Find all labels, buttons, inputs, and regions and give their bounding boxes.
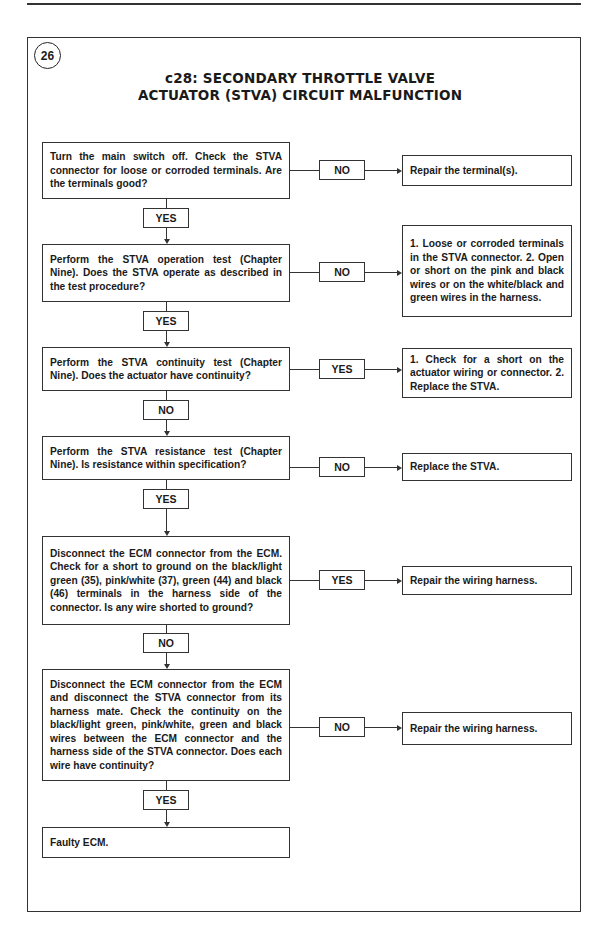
connector-line xyxy=(166,480,167,489)
connector-line xyxy=(166,625,167,633)
connector-line xyxy=(166,781,167,790)
step-2-result-box: 1. Loose or corroded terminals in the ST… xyxy=(402,225,572,317)
step-5-result-box: Repair the wiring harness. xyxy=(402,566,572,595)
step-3-yes-label: YES xyxy=(319,359,365,379)
step-5-no-label: NO xyxy=(143,633,189,653)
figure-number-badge: 26 xyxy=(34,42,61,69)
step-4-yes-label: YES xyxy=(143,489,189,509)
connector-line xyxy=(365,580,397,581)
step-6-box: Disconnect the ECM connector from the EC… xyxy=(42,669,290,781)
step-2-no-label: NO xyxy=(319,262,365,282)
figure-title: c28: SECONDARY THROTTLE VALVE ACTUATOR (… xyxy=(60,70,540,104)
connector-line xyxy=(290,727,319,728)
connector-line xyxy=(166,653,167,664)
connector-line xyxy=(290,467,319,468)
step-1-no-label: NO xyxy=(319,160,365,180)
connector-line xyxy=(290,580,319,581)
connector-line xyxy=(290,272,319,273)
step-4-box: Perform the STVA resistance test (Chapte… xyxy=(42,436,290,480)
connector-line xyxy=(365,170,397,171)
step-2-yes-label: YES xyxy=(143,311,189,331)
step-4-no-label: NO xyxy=(319,457,365,477)
step-4-result-box: Replace the STVA. xyxy=(402,453,572,481)
step-5-yes-label: YES xyxy=(319,570,365,590)
step-2-box: Perform the STVA operation test (Chapter… xyxy=(42,244,290,302)
connector-line xyxy=(166,420,167,431)
connector-line xyxy=(166,199,167,208)
step-1-result-box: Repair the terminal(s). xyxy=(402,155,572,186)
connector-line xyxy=(166,331,167,342)
page-header-rule xyxy=(27,3,581,5)
connector-line xyxy=(290,369,319,370)
step-3-box: Perform the STVA continuity test (Chapte… xyxy=(42,347,290,391)
step-3-no-label: NO xyxy=(143,400,189,420)
connector-line xyxy=(166,509,167,531)
step-7-box: Faulty ECM. xyxy=(42,827,290,858)
title-line-2: ACTUATOR (STVA) CIRCUIT MALFUNCTION xyxy=(60,87,540,104)
connector-line xyxy=(290,170,319,171)
step-6-result-box: Repair the wiring harness. xyxy=(402,712,572,745)
connector-line xyxy=(365,467,397,468)
connector-line xyxy=(166,302,167,311)
connector-line xyxy=(166,228,167,239)
title-line-1: c28: SECONDARY THROTTLE VALVE xyxy=(60,70,540,87)
step-1-box: Turn the main switch off. Check the STVA… xyxy=(42,142,290,199)
connector-line xyxy=(166,391,167,400)
step-3-result-box: 1. Check for a short on the actuator wir… xyxy=(402,348,572,398)
connector-line xyxy=(365,369,397,370)
step-6-no-label: NO xyxy=(319,717,365,737)
connector-line xyxy=(365,727,397,728)
connector-line xyxy=(166,810,167,822)
step-6-yes-label: YES xyxy=(143,790,189,810)
step-5-box: Disconnect the ECM connector from the EC… xyxy=(42,536,290,625)
connector-line xyxy=(365,272,397,273)
step-1-yes-label: YES xyxy=(143,208,189,228)
